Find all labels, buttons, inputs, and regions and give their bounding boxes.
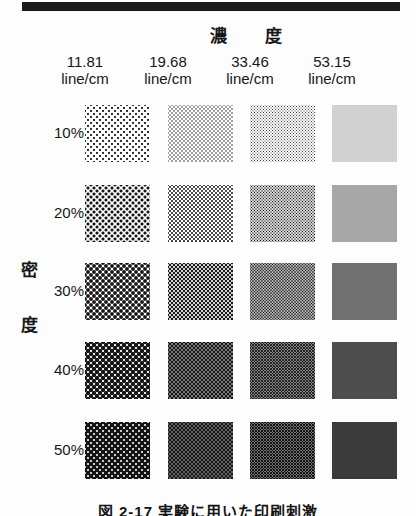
halftone-patch-r1-c4 xyxy=(332,105,397,162)
halftone-patch-r2-c1 xyxy=(85,185,150,242)
column-axis-title: 濃 度 xyxy=(185,27,307,47)
halftone-patch-r2-c3 xyxy=(250,185,315,242)
column-header-unit: line/cm xyxy=(126,70,210,87)
halftone-patch-r1-c1 xyxy=(85,105,150,162)
column-header-unit: line/cm xyxy=(208,70,292,87)
figure-caption: 図 2-17 実験に用いた印刷刺激 xyxy=(0,503,416,516)
halftone-patch-r2-c4 xyxy=(332,185,397,242)
row-header-40: 40% xyxy=(40,361,84,378)
column-header-0: 11.81 line/cm xyxy=(43,53,127,87)
halftone-patch-r5-c4 xyxy=(332,422,397,479)
top-rule xyxy=(22,2,400,11)
column-header-2: 33.46 line/cm xyxy=(208,53,292,87)
halftone-patch-r1-c2 xyxy=(168,105,233,162)
column-header-3: 53.15 line/cm xyxy=(290,53,374,87)
row-header-30: 30% xyxy=(40,282,84,299)
row-header-10: 10% xyxy=(40,124,84,141)
halftone-patch-r5-c2 xyxy=(168,422,233,479)
halftone-patch-r4-c1 xyxy=(85,342,150,399)
row-axis-title-char-2: 度 xyxy=(18,316,40,336)
halftone-patch-r3-c4 xyxy=(332,263,397,320)
column-header-1: 19.68 line/cm xyxy=(126,53,210,87)
halftone-patch-r1-c3 xyxy=(250,105,315,162)
halftone-patch-r3-c1 xyxy=(85,263,150,320)
row-header-50: 50% xyxy=(40,441,84,458)
column-header-unit: line/cm xyxy=(43,70,127,87)
halftone-patch-r5-c3 xyxy=(250,422,315,479)
halftone-patch-r4-c2 xyxy=(168,342,233,399)
halftone-patch-r5-c1 xyxy=(85,422,150,479)
column-header-unit: line/cm xyxy=(290,70,374,87)
figure-page: 濃 度 11.81 line/cm 19.68 line/cm 33.46 li… xyxy=(0,0,416,516)
column-header-value: 19.68 xyxy=(126,53,210,70)
column-header-value: 53.15 xyxy=(290,53,374,70)
column-header-value: 11.81 xyxy=(43,53,127,70)
halftone-patch-r2-c2 xyxy=(168,185,233,242)
halftone-patch-r3-c3 xyxy=(250,263,315,320)
column-header-value: 33.46 xyxy=(208,53,292,70)
row-header-20: 20% xyxy=(40,204,84,221)
halftone-patch-r4-c4 xyxy=(332,342,397,399)
row-axis-title-char-1: 密 xyxy=(18,261,40,281)
halftone-patch-r4-c3 xyxy=(250,342,315,399)
halftone-patch-r3-c2 xyxy=(168,263,233,320)
